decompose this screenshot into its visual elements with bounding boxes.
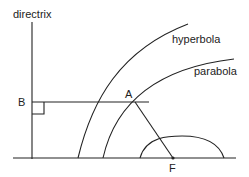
parabola-label: parabola [194, 65, 238, 77]
diagram-svg: directrix hyperbola parabola B A F [0, 0, 249, 177]
hyperbola-label: hyperbola [172, 33, 221, 45]
focus-point [171, 156, 174, 159]
point-a-label: A [125, 88, 133, 100]
directrix-label: directrix [13, 8, 52, 20]
segment-af [135, 102, 173, 158]
conic-diagram: directrix hyperbola parabola B A F [0, 0, 249, 177]
point-b-label: B [18, 96, 25, 108]
ellipse-arc [140, 136, 224, 158]
right-angle-marker [32, 102, 44, 114]
focus-label: F [169, 162, 176, 174]
